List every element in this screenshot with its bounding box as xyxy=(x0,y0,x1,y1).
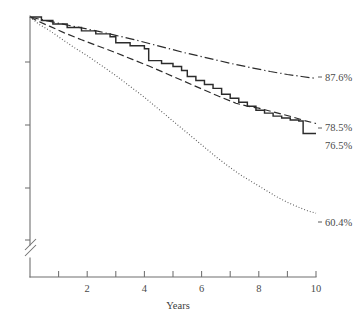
km-plot-svg: 2 4 6 8 10 Years 87.6% 78.5% 76.5% 60.4% xyxy=(0,0,362,318)
x-tick-label-2: 2 xyxy=(85,283,90,294)
survival-curve-chart: 2 4 6 8 10 Years 87.6% 78.5% 76.5% 60.4% xyxy=(0,0,362,318)
y-axis-break-mark-lower xyxy=(25,245,36,256)
x-axis-title: Years xyxy=(166,300,189,311)
x-tick-label-8: 8 xyxy=(256,283,261,294)
series-line-dash-dot xyxy=(30,17,316,78)
endpoint-label-dotted: 60.4% xyxy=(325,217,352,228)
series-line-dashed xyxy=(30,17,316,124)
x-tick-label-10: 10 xyxy=(311,283,322,294)
endpoint-label-dashed: 78.5% xyxy=(325,122,352,133)
x-tick-label-6: 6 xyxy=(199,283,204,294)
endpoint-label-dashdot: 87.6% xyxy=(325,72,352,83)
endpoint-label-solid: 76.5% xyxy=(325,140,352,151)
series-line-solid xyxy=(30,17,316,133)
x-tick-label-4: 4 xyxy=(142,283,148,294)
